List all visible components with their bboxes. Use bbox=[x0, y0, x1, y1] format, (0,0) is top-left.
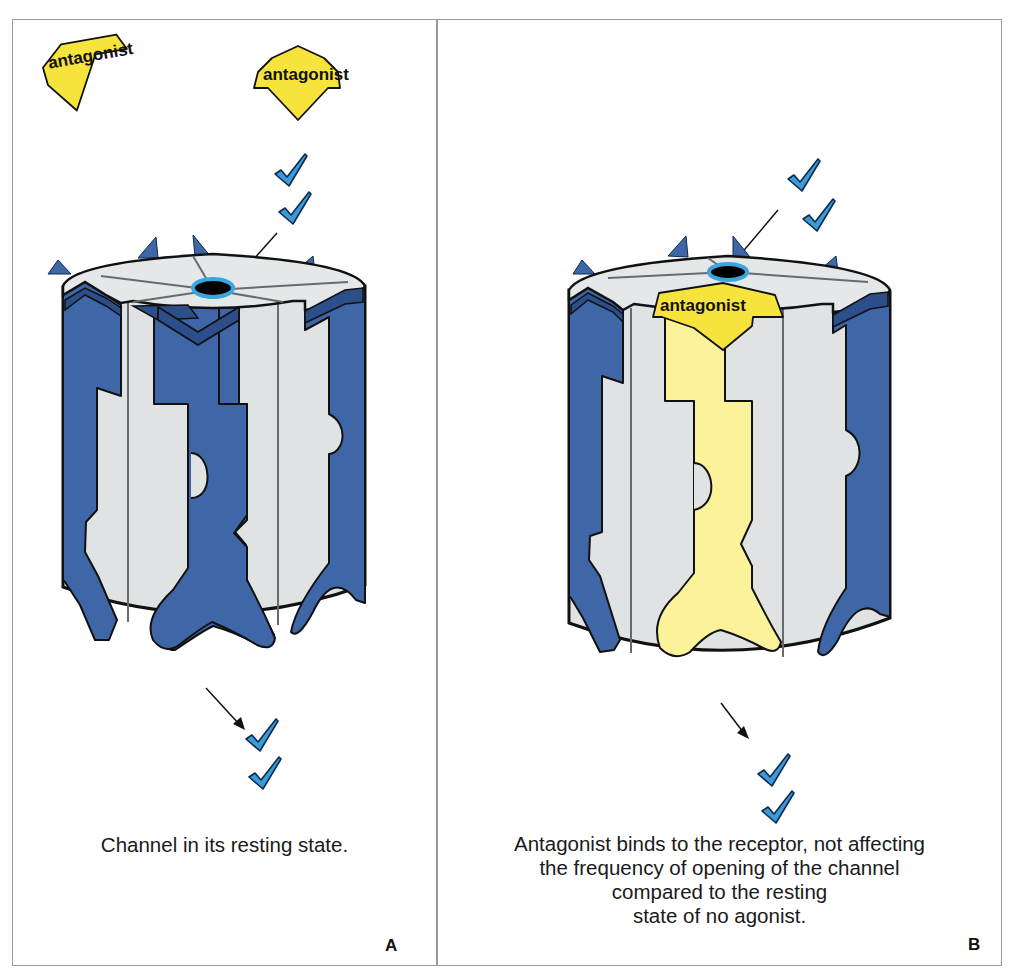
agonist-check-icon bbox=[762, 791, 794, 823]
caption-line: compared to the resting bbox=[438, 880, 1001, 904]
caption-line: state of no agonist. bbox=[438, 904, 1001, 928]
antagonist-ligand-free-2: antagonist bbox=[254, 46, 349, 120]
channel-pore bbox=[709, 264, 747, 280]
panel-b-label: B bbox=[968, 935, 980, 955]
agonist-check-icon bbox=[803, 199, 835, 231]
panel-b-caption: Antagonist binds to the receptor, not af… bbox=[438, 832, 1001, 928]
caption-line: Antagonist binds to the receptor, not af… bbox=[438, 832, 1001, 856]
antagonist-label: antagonist bbox=[660, 296, 746, 315]
panel-a-label: A bbox=[385, 936, 397, 956]
panel-a-caption: Channel in its resting state. bbox=[13, 833, 436, 857]
channel-pore bbox=[193, 279, 233, 297]
agonist-check-icon bbox=[249, 757, 281, 789]
ion-channel: antagonist bbox=[569, 236, 890, 657]
antagonist-label: antagonist bbox=[263, 65, 349, 84]
agonist-check-icon bbox=[246, 719, 278, 751]
panel-a: antagonist antagonist bbox=[13, 20, 436, 965]
agonist-check-icon bbox=[279, 192, 311, 224]
panel-a-illustration: antagonist antagonist bbox=[13, 20, 436, 965]
agonist-check-icon bbox=[275, 154, 307, 186]
arrow-out-of-channel-icon bbox=[721, 703, 749, 739]
agonist-check-icon bbox=[758, 754, 790, 786]
ion-channel bbox=[48, 235, 365, 650]
arrow-out-of-channel-icon bbox=[206, 688, 245, 730]
antagonist-ligand-free-1: antagonist bbox=[39, 32, 142, 115]
panel-b-illustration: antagonist bbox=[438, 20, 1001, 965]
agonist-check-icon bbox=[788, 159, 820, 191]
panel-b: antagonist Antagonist binds to the recep… bbox=[438, 20, 1001, 965]
caption-line: the frequency of opening of the channel bbox=[438, 856, 1001, 880]
